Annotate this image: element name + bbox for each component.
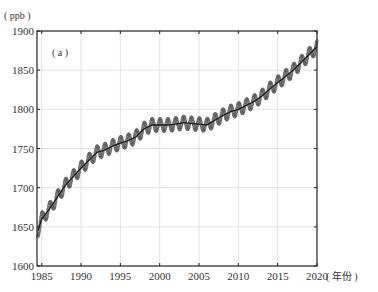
x-axis-ticks: 19851990199520002005201020152020 bbox=[31, 31, 329, 282]
y-axis-unit-label: ( ppb ) bbox=[4, 10, 31, 22]
data-series bbox=[36, 39, 318, 238]
x-tick-label: 2010 bbox=[227, 270, 250, 282]
x-tick-label: 2015 bbox=[267, 270, 290, 282]
x-tick-label: 2005 bbox=[188, 270, 211, 282]
x-tick-label: 1990 bbox=[70, 270, 93, 282]
y-tick-label: 1750 bbox=[12, 143, 35, 155]
y-tick-label: 1650 bbox=[12, 221, 35, 233]
y-tick-label: 1700 bbox=[12, 182, 35, 194]
grid-lines bbox=[37, 31, 317, 266]
y-tick-label: 1800 bbox=[12, 103, 35, 115]
x-tick-label: 1985 bbox=[31, 270, 54, 282]
trend-line bbox=[38, 47, 317, 231]
x-tick-label: 1995 bbox=[109, 270, 132, 282]
y-tick-label: 1850 bbox=[12, 64, 35, 76]
y-tick-label: 1900 bbox=[12, 25, 35, 37]
methane-concentration-chart: 1600165017001750180018501900 19851990199… bbox=[0, 0, 378, 292]
x-axis-unit-label: ( 年份 ) bbox=[326, 270, 358, 283]
panel-label: ( a ) bbox=[52, 47, 68, 59]
x-tick-label: 2000 bbox=[149, 270, 172, 282]
